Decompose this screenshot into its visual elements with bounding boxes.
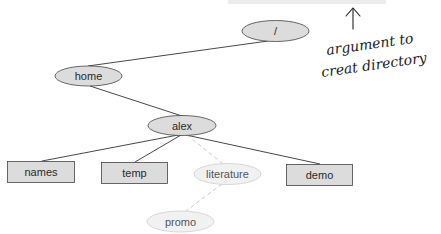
node-label-temp: temp	[122, 167, 146, 179]
node-label-names: names	[24, 166, 58, 178]
node-names: names	[8, 162, 75, 183]
node-home: home	[55, 66, 122, 86]
edge-literature-promo	[186, 184, 222, 211]
edge-alex-names	[42, 135, 178, 161]
node-label-home: home	[75, 70, 103, 82]
node-label-alex: alex	[172, 120, 193, 132]
node-temp: temp	[102, 163, 168, 184]
edge-root-home	[88, 41, 268, 66]
node-label-demo: demo	[306, 169, 334, 181]
up-arrow-icon	[346, 8, 360, 29]
node-literature: literature	[194, 164, 261, 185]
node-alex: alex	[148, 116, 216, 136]
node-promo: promo	[147, 211, 214, 232]
top-highlight-bar	[228, 0, 386, 4]
directory-tree-diagram: / home alex names temp literature demo p…	[0, 0, 441, 234]
edges	[42, 41, 320, 164]
node-demo: demo	[287, 165, 353, 186]
edge-alex-demo	[186, 135, 320, 164]
node-label-promo: promo	[165, 216, 196, 228]
edge-home-alex	[90, 86, 182, 116]
node-label-literature: literature	[206, 168, 249, 180]
node-root: /	[242, 21, 309, 42]
